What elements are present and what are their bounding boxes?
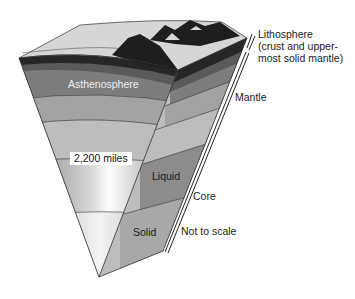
label-not-to-scale: Not to scale [181, 225, 236, 237]
label-core: Core [193, 190, 216, 202]
label-lithosphere: Lithosphere [258, 28, 313, 40]
label-solid-core: Solid [133, 226, 156, 238]
label-liquid-core: Liquid [152, 170, 180, 182]
label-distance: 2,200 miles [70, 152, 132, 165]
label-asthenosphere: Asthenosphere [68, 78, 139, 90]
label-lithosphere-desc-1: (crust and upper- [258, 40, 338, 52]
label-mantle: Mantle [235, 91, 267, 103]
label-lithosphere-desc-2: most solid mantle) [258, 52, 343, 64]
